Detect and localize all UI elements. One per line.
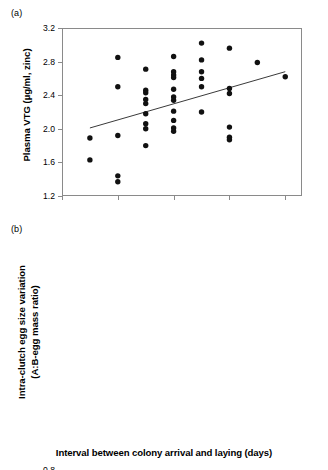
- panel-a-data-point: [143, 126, 148, 131]
- panel-b-y-axis-title: Intra-clutch egg size variation (A:B-egg…: [16, 246, 41, 418]
- panel-b-y-axis-title-line2: (A:B-egg mass ratio): [29, 246, 42, 418]
- panel-b-y-tick-label: 0.8: [43, 466, 55, 470]
- x-axis-title: Interval between colony arrival and layi…: [0, 447, 328, 458]
- panel-a-data-point: [143, 111, 148, 116]
- panel-a-data-point: [199, 69, 204, 74]
- panel-a-x-tick: [285, 196, 286, 200]
- panel-a-y-tick-label: 2.8: [43, 57, 55, 66]
- panel-a-data-point: [115, 55, 120, 60]
- panel-a-data-point: [199, 76, 204, 81]
- panel-a-data-point: [283, 74, 288, 79]
- panel-a-x-tick: [118, 196, 119, 200]
- panel-a-data-point: [227, 45, 232, 50]
- panel-a-data-point: [115, 173, 120, 178]
- panel-a-x-tick: [174, 196, 175, 200]
- panel-a-data-point: [143, 143, 148, 148]
- panel-a-data-point: [171, 75, 176, 80]
- panel-a-plot-area: 1.21.62.02.42.83.2: [62, 28, 302, 196]
- panel-a-data-point: [171, 98, 176, 103]
- panel-a-y-tick-label: 2.0: [43, 125, 55, 134]
- panel-a-data-point: [199, 109, 204, 114]
- panel-a-data-point: [199, 84, 204, 89]
- panel-a-y-axis-title: Plasma VTG (µg/ml, zinc): [21, 20, 32, 190]
- panel-a-y-tick: [58, 95, 62, 96]
- panel-a: (a) Plasma VTG (µg/ml, zinc) 1.21.62.02.…: [0, 0, 328, 228]
- panel-a-data-point: [171, 129, 176, 134]
- panel-a-data-point: [227, 91, 232, 96]
- panel-b-y-axis-title-line1: Intra-clutch egg size variation: [16, 246, 29, 418]
- panel-a-y-tick-label: 2.4: [43, 91, 55, 100]
- panel-a-y-tick: [58, 62, 62, 63]
- panel-a-data-point: [143, 101, 148, 106]
- panel-a-data-point: [143, 90, 148, 95]
- panel-a-data-point: [199, 57, 204, 62]
- panel-a-data-point: [227, 124, 232, 129]
- panel-a-data-point: [87, 135, 92, 140]
- panel-a-data-point: [143, 66, 148, 71]
- panel-a-label: (a): [11, 8, 22, 18]
- panel-a-data-layer: [62, 28, 302, 196]
- panel-a-data-point: [115, 84, 120, 89]
- panel-a-data-point: [199, 40, 204, 45]
- panel-a-data-point: [227, 137, 232, 142]
- panel-a-data-point: [171, 118, 176, 123]
- panel-a-data-point: [171, 87, 176, 92]
- panel-a-data-point: [115, 179, 120, 184]
- panel-a-y-tick-label: 1.6: [43, 158, 55, 167]
- scientific-figure: (a) Plasma VTG (µg/ml, zinc) 1.21.62.02.…: [0, 0, 328, 470]
- panel-a-data-point: [87, 157, 92, 162]
- panel-a-data-point: [171, 54, 176, 59]
- panel-a-regression-line: [90, 72, 285, 128]
- panel-a-data-point: [227, 86, 232, 91]
- panel-a-x-tick: [229, 196, 230, 200]
- panel-a-y-tick: [58, 162, 62, 163]
- panel-a-y-tick: [58, 28, 62, 29]
- panel-a-x-tick: [62, 196, 63, 200]
- panel-a-y-tick: [58, 129, 62, 130]
- panel-b-label: (b): [11, 224, 22, 234]
- panel-a-data-point: [115, 133, 120, 138]
- panel-a-data-point: [171, 108, 176, 113]
- panel-a-data-point: [143, 121, 148, 126]
- panel-a-y-tick-label: 3.2: [43, 24, 55, 33]
- panel-b: (b) Intra-clutch egg size variation (A:B…: [0, 222, 328, 470]
- panel-a-data-point: [255, 60, 260, 65]
- panel-a-y-tick-label: 1.2: [43, 192, 55, 201]
